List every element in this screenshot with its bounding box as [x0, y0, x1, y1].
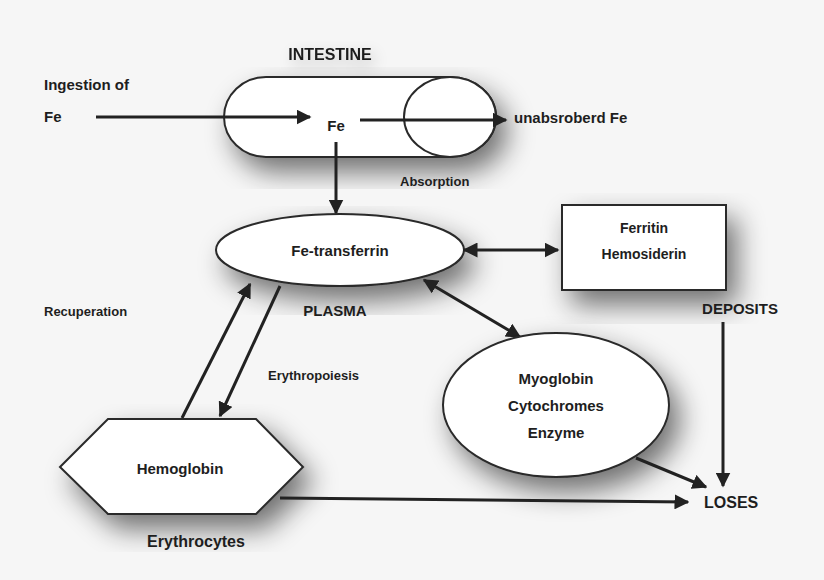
- hemoglobin-label: Hemoglobin: [137, 460, 224, 477]
- transferrin-label: Fe-transferrin: [291, 242, 389, 259]
- tissue-label-line3: Enzyme: [528, 424, 585, 441]
- iron-metabolism-diagram: INTESTINE Ingestion of Fe Fe unabsroberd…: [0, 0, 824, 580]
- loses-label: LOSES: [704, 494, 759, 511]
- erythropoiesis-label: Erythropoiesis: [268, 368, 359, 383]
- erythrocytes-label: Erythrocytes: [147, 533, 245, 550]
- tissue-label-line2: Cytochromes: [508, 397, 604, 414]
- deposits-box-line2: Hemosiderin: [602, 246, 687, 262]
- plasma-label: PLASMA: [303, 302, 367, 319]
- ingestion-label-line1: Ingestion of: [44, 76, 130, 93]
- absorption-label: Absorption: [400, 174, 469, 189]
- deposits-box-line1: Ferritin: [620, 220, 668, 236]
- recuperation-label: Recuperation: [44, 304, 127, 319]
- tissue-label-line1: Myoglobin: [519, 370, 594, 387]
- ingestion-label-line2: Fe: [44, 108, 62, 125]
- intestine-title: INTESTINE: [288, 46, 372, 63]
- intestine-fe-label: Fe: [327, 117, 345, 134]
- deposits-label: DEPOSITS: [702, 300, 778, 317]
- unabsorbed-label: unabsroberd Fe: [514, 109, 627, 126]
